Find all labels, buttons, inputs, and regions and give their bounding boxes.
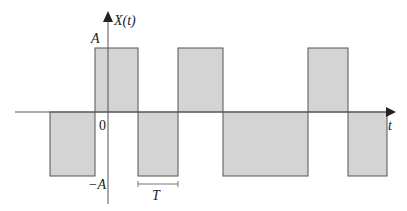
time-axis-arrow-icon xyxy=(386,107,396,117)
negative-pulse xyxy=(138,112,178,176)
negative-pulse xyxy=(50,112,95,176)
period-label: T xyxy=(152,188,160,204)
waveform-plot xyxy=(0,0,407,211)
x-axis-label: t xyxy=(388,118,392,134)
amplitude-top-label: A xyxy=(91,31,100,47)
negative-pulse xyxy=(348,112,387,176)
origin-label: 0 xyxy=(99,118,106,134)
amplitude-axis-arrow-icon xyxy=(103,11,113,22)
amplitude-bottom-label: −A xyxy=(88,177,106,193)
negative-pulse xyxy=(223,112,308,176)
y-axis-label: X(t) xyxy=(114,13,136,29)
positive-pulse xyxy=(178,48,223,112)
positive-pulse xyxy=(308,48,348,112)
positive-pulse xyxy=(95,48,138,112)
random-telegraph-signal-diagram: X(t) t A −A 0 T xyxy=(0,0,407,211)
